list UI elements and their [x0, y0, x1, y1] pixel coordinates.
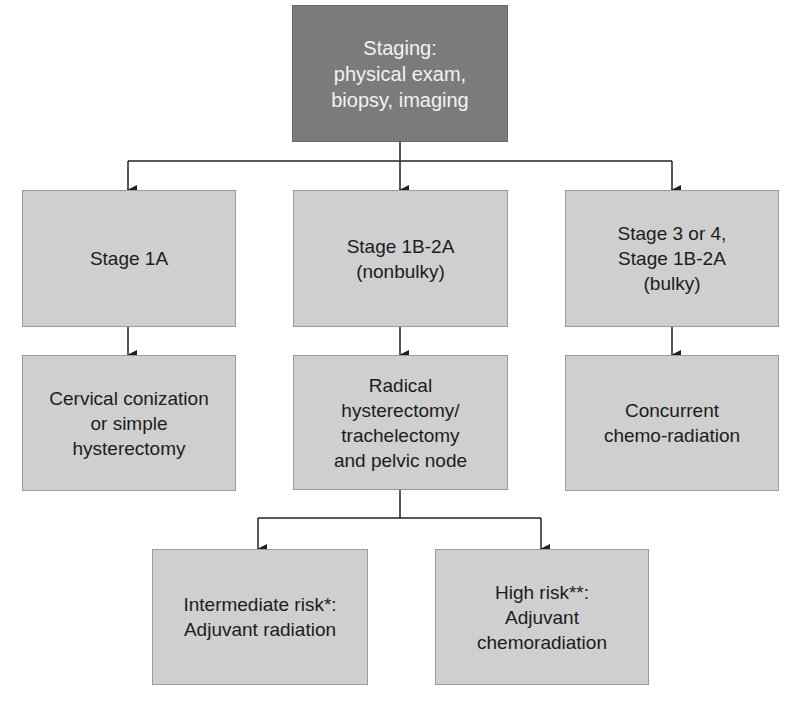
node-stage-3-4-bulky: Stage 3 or 4, Stage 1B-2A (bulky) — [565, 190, 779, 327]
node-chemoradiation: Concurrent chemo-radiation — [565, 355, 779, 491]
node-stage-1a: Stage 1A — [22, 190, 236, 327]
node-chemoradiation-label: Concurrent chemo-radiation — [604, 398, 740, 448]
node-conization-label: Cervical conization or simple hysterecto… — [49, 386, 208, 461]
node-intermediate-risk-label: Intermediate risk*: Adjuvant radiation — [183, 592, 336, 642]
node-high-risk: High risk**: Adjuvant chemoradiation — [435, 549, 649, 685]
node-conization: Cervical conization or simple hysterecto… — [22, 355, 236, 491]
node-radical-hysterectomy: Radical hysterectomy/ trachelectomy and … — [293, 355, 508, 490]
node-radical-hysterectomy-label: Radical hysterectomy/ trachelectomy and … — [334, 373, 467, 473]
node-high-risk-label: High risk**: Adjuvant chemoradiation — [477, 580, 607, 655]
node-stage-1a-label: Stage 1A — [90, 246, 168, 271]
node-stage-3-4-bulky-label: Stage 3 or 4, Stage 1B-2A (bulky) — [618, 221, 727, 296]
node-staging: Staging: physical exam, biopsy, imaging — [292, 5, 508, 142]
node-stage-1b-2a-nonbulky: Stage 1B-2A (nonbulky) — [293, 190, 508, 327]
node-stage-1b-2a-nonbulky-label: Stage 1B-2A (nonbulky) — [347, 234, 455, 284]
node-intermediate-risk: Intermediate risk*: Adjuvant radiation — [152, 549, 368, 685]
node-staging-label: Staging: physical exam, biopsy, imaging — [331, 35, 468, 113]
